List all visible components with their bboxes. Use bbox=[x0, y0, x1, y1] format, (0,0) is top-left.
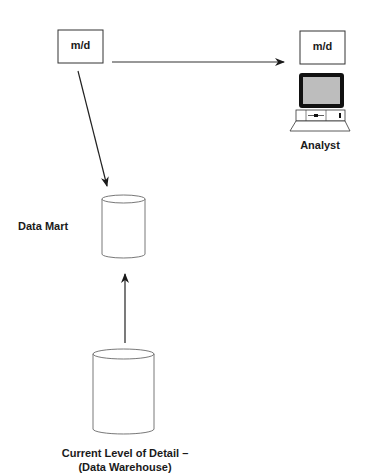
analyst-label: Analyst bbox=[290, 139, 350, 151]
diagram-canvas bbox=[0, 0, 374, 475]
arrow-md-to-datamart bbox=[78, 71, 107, 186]
warehouse-label-line2: (Data Warehouse) bbox=[40, 461, 210, 473]
warehouse-cylinder bbox=[93, 349, 154, 434]
data-mart-cylinder bbox=[102, 195, 145, 258]
data-mart-label: Data Mart bbox=[18, 220, 78, 232]
computer-icon bbox=[290, 73, 350, 131]
md-left-label: m/d bbox=[58, 39, 103, 51]
md-right-label: m/d bbox=[300, 40, 345, 52]
warehouse-label-line1: Current Level of Detail – bbox=[40, 447, 210, 459]
